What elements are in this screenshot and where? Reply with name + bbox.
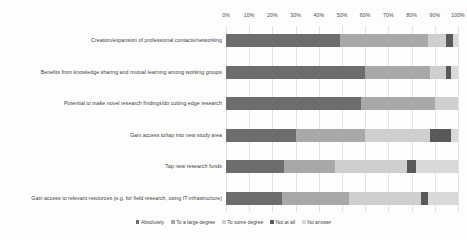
bar-segment	[451, 66, 458, 79]
x-axis-tick-40: 40%	[313, 12, 324, 18]
gridline-40	[319, 26, 320, 212]
bar-track	[226, 97, 458, 110]
bar-segment	[451, 129, 458, 142]
legend-label: To a large degree	[176, 219, 215, 225]
bar-segment	[226, 129, 296, 142]
bar-segment	[349, 192, 421, 205]
plot-area	[226, 26, 458, 212]
legend-item[interactable]: No answer	[302, 219, 331, 225]
x-axis-tick-80: 80%	[406, 12, 417, 18]
bar-segment	[226, 97, 361, 110]
bar-row	[226, 129, 458, 142]
legend-swatch-icon	[302, 220, 306, 224]
gridline-50	[342, 26, 343, 212]
bar-track	[226, 160, 458, 173]
x-axis-tick-20: 20%	[267, 12, 278, 18]
bar-segment	[226, 160, 284, 173]
category-label: Gain access to relevant resources (e.g. …	[0, 192, 222, 205]
bar-segment	[296, 129, 366, 142]
legend-item[interactable]: To a large degree	[171, 219, 215, 225]
bar-track	[226, 192, 458, 205]
bar-segment	[407, 160, 416, 173]
bar-row	[226, 97, 458, 110]
bar-segment	[365, 129, 430, 142]
category-label: Potential to make novel research finding…	[0, 97, 222, 110]
bar-segment	[361, 97, 435, 110]
gridline-70	[388, 26, 389, 212]
bar-segment	[428, 192, 458, 205]
legend-swatch-icon	[136, 220, 140, 224]
legend-swatch-icon	[270, 220, 274, 224]
bar-row	[226, 34, 458, 47]
gridline-60	[365, 26, 366, 212]
gridline-90	[435, 26, 436, 212]
legend-label: No answer	[307, 219, 331, 225]
legend-item[interactable]: Absolutely	[136, 219, 164, 225]
bar-track	[226, 66, 458, 79]
x-axis-tick-90: 90%	[429, 12, 440, 18]
bar-segment	[453, 34, 458, 47]
x-axis-tick-10: 10%	[244, 12, 255, 18]
bar-segment	[226, 34, 340, 47]
gridline-80	[412, 26, 413, 212]
bar-segment	[284, 160, 335, 173]
bar-segment	[226, 192, 282, 205]
bar-segment	[435, 97, 458, 110]
bar-segment	[226, 66, 365, 79]
bar-segment	[428, 34, 447, 47]
category-label: Creation/expansion of professional conta…	[0, 34, 222, 47]
x-axis-tick-50: 50%	[337, 12, 348, 18]
legend-swatch-icon	[171, 220, 175, 224]
legend-label: To some degree	[227, 219, 263, 225]
x-axis-tick-30: 30%	[290, 12, 301, 18]
x-axis-tick-70: 70%	[383, 12, 394, 18]
category-label: Gain access to/tap into new study area	[0, 129, 222, 142]
stacked-bar-chart: 0%10%20%30%40%50%60%70%80%90%100% Creati…	[0, 0, 467, 240]
bar-segment	[430, 66, 446, 79]
legend-item[interactable]: To some degree	[222, 219, 263, 225]
x-axis-tick-100: 100%	[451, 12, 465, 18]
gridline-0	[226, 26, 227, 212]
bar-segment	[446, 34, 453, 47]
bar-segment	[430, 129, 451, 142]
chart-legend: AbsolutelyTo a large degreeTo some degre…	[0, 219, 467, 225]
bar-track	[226, 34, 458, 47]
gridline-30	[296, 26, 297, 212]
gridline-20	[272, 26, 273, 212]
gridline-100	[458, 26, 459, 212]
bar-segment	[340, 34, 428, 47]
bar-segment	[365, 66, 430, 79]
legend-swatch-icon	[222, 220, 226, 224]
bar-segment	[416, 160, 458, 173]
category-label: Tap new research funds	[0, 160, 222, 173]
bar-row	[226, 66, 458, 79]
x-axis-tick-labels: 0%10%20%30%40%50%60%70%80%90%100%	[0, 12, 467, 26]
bar-track	[226, 129, 458, 142]
category-label: Benefits from knowledge sharing and mutu…	[0, 66, 222, 79]
legend-label: Not at all	[275, 219, 295, 225]
bar-row	[226, 160, 458, 173]
legend-label: Absolutely	[141, 219, 164, 225]
bar-segment	[335, 160, 407, 173]
gridline-10	[249, 26, 250, 212]
x-axis-tick-0: 0%	[222, 12, 230, 18]
x-axis-tick-60: 60%	[360, 12, 371, 18]
bar-row	[226, 192, 458, 205]
bar-segment	[282, 192, 349, 205]
legend-item[interactable]: Not at all	[270, 219, 295, 225]
bar-segment	[421, 192, 428, 205]
